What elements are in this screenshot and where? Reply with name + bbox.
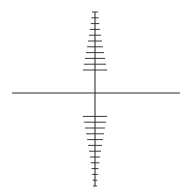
axes-cube-diagram: [0, 0, 189, 195]
figure-root: [0, 0, 189, 195]
